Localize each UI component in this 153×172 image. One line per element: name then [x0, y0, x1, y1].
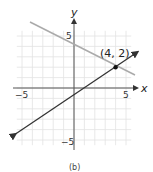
figure-caption: (b) — [69, 163, 80, 172]
y-axis-label: y — [70, 6, 78, 19]
chart: x y −5 5 5 −5 (4, 2) (b) — [0, 0, 153, 172]
x-tick-neg5: −5 — [15, 90, 28, 100]
intersection-point — [113, 65, 117, 69]
x-axis-label: x — [140, 82, 148, 95]
y-tick-neg5: −5 — [61, 137, 74, 147]
intersection-label: (4, 2) — [100, 47, 130, 60]
y-tick-5: 5 — [66, 31, 72, 41]
x-tick-5: 5 — [123, 90, 129, 100]
x-axis-arrow-icon — [133, 85, 139, 91]
